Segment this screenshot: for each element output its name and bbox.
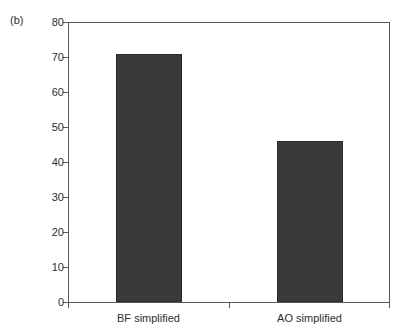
- y-tick-label: 50: [52, 122, 64, 133]
- x-tick-mark-1: [68, 303, 69, 308]
- plot-area: 01020304050607080 BF simplifiedAO simpli…: [68, 22, 390, 303]
- x-tick-mark-3: [389, 303, 390, 308]
- y-tick-label: 80: [52, 17, 64, 28]
- category-label-2: AO simplified: [277, 312, 342, 325]
- y-tick-label: 10: [52, 262, 64, 273]
- y-tick-label: 70: [52, 52, 64, 63]
- y-tick-label: 40: [52, 157, 64, 168]
- y-tick-label: 30: [52, 192, 64, 203]
- y-tick-label: 60: [52, 87, 64, 98]
- y-tick-label: 20: [52, 227, 64, 238]
- x-tick-mark-2: [229, 303, 230, 308]
- category-label-1: BF simplified: [117, 312, 180, 325]
- figure-panel-b: (b) 01020304050607080 BF simplifiedAO si…: [0, 0, 408, 336]
- y-axis-line: [68, 22, 69, 303]
- plot-top-frame: [68, 22, 390, 23]
- y-tick-label: 0: [58, 297, 64, 308]
- bar-2: [277, 141, 343, 302]
- plot-right-frame: [389, 22, 390, 303]
- panel-label: (b): [10, 14, 23, 27]
- bar-1: [116, 54, 182, 303]
